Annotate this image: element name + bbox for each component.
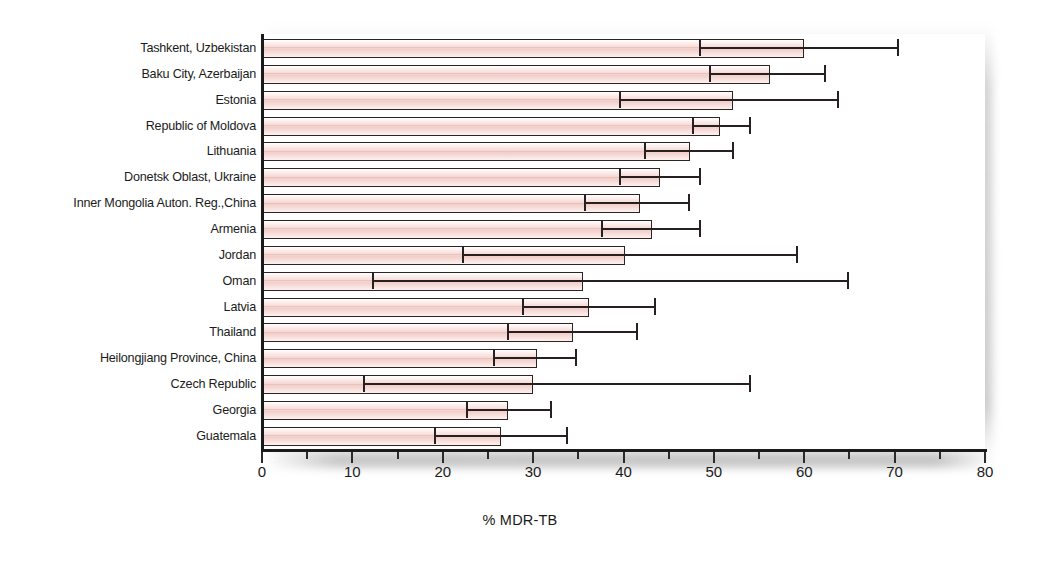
x-tick-label: 20: [413, 463, 473, 480]
x-tick-label: 70: [865, 463, 925, 480]
x-tick-minor: [487, 452, 489, 459]
error-bar-line: [645, 150, 733, 152]
x-tick-major: [984, 452, 986, 463]
x-tick-label: 50: [684, 463, 744, 480]
error-bar-line: [373, 280, 847, 282]
x-tick-major: [623, 452, 625, 463]
bar: [262, 220, 652, 239]
error-bar-cap-high: [837, 91, 839, 108]
category-label: Latvia: [0, 298, 256, 316]
error-bar-cap-high: [654, 298, 656, 315]
category-label: Georgia: [0, 401, 256, 419]
category-label: Estonia: [0, 91, 256, 109]
x-tick-label: 10: [322, 463, 382, 480]
x-tick-major: [894, 452, 896, 463]
error-bar-cap-high: [688, 194, 690, 211]
bar: [262, 142, 690, 161]
error-bar-cap-low: [462, 246, 464, 263]
error-bar-line: [585, 202, 690, 204]
error-bar-line: [693, 125, 750, 127]
error-bar-cap-high: [699, 220, 701, 237]
error-bar-line: [364, 383, 750, 385]
error-bar-cap-high: [749, 117, 751, 134]
x-tick-major: [442, 452, 444, 463]
error-bar-cap-high: [847, 272, 849, 289]
x-tick-minor: [668, 452, 670, 459]
y-axis-line: [261, 34, 264, 451]
error-bar-cap-low: [619, 168, 621, 185]
error-bar-line: [710, 73, 825, 75]
category-label: Donetsk Oblast, Ukraine: [0, 168, 256, 186]
x-tick-label: 80: [955, 463, 1015, 480]
bar: [262, 168, 660, 187]
error-bar-line: [494, 357, 575, 359]
error-bar-cap-low: [507, 323, 509, 340]
category-label: Oman: [0, 272, 256, 290]
x-tick-minor: [577, 452, 579, 459]
error-bar-cap-low: [493, 349, 495, 366]
x-tick-minor: [306, 452, 308, 459]
error-bar-cap-low: [522, 298, 524, 315]
error-bar-cap-low: [644, 142, 646, 159]
x-tick-label: 0: [232, 463, 292, 480]
category-label: Czech Republic: [0, 375, 256, 393]
category-label: Inner Mongolia Auton. Reg.,China: [0, 194, 256, 212]
x-tick-minor: [848, 452, 850, 459]
x-axis-title: % MDR-TB: [0, 512, 1040, 528]
category-label: Tashkent, Uzbekistan: [0, 39, 256, 57]
x-tick-minor: [939, 452, 941, 459]
error-bar-cap-high: [897, 39, 899, 56]
error-bar-cap-low: [601, 220, 603, 237]
error-bar-cap-low: [372, 272, 374, 289]
x-tick-major: [803, 452, 805, 463]
category-label: Jordan: [0, 246, 256, 264]
category-label: Guatemala: [0, 427, 256, 445]
category-label: Baku City, Azerbaijan: [0, 65, 256, 83]
error-bar-line: [508, 331, 637, 333]
error-bar-line: [463, 254, 797, 256]
category-label: Armenia: [0, 220, 256, 238]
bar: [262, 65, 770, 84]
x-tick-major: [532, 452, 534, 463]
error-bar-cap-high: [636, 323, 638, 340]
error-bar-cap-low: [466, 401, 468, 418]
x-tick-major: [713, 452, 715, 463]
error-bar-cap-high: [824, 65, 826, 82]
error-bar-cap-low: [699, 39, 701, 56]
x-tick-major: [261, 452, 263, 463]
x-tick-minor: [397, 452, 399, 459]
x-tick-label: 60: [774, 463, 834, 480]
error-bar-cap-high: [550, 401, 552, 418]
error-bar-line: [435, 435, 567, 437]
error-bar-cap-low: [709, 65, 711, 82]
category-label: Republic of Moldova: [0, 117, 256, 135]
x-tick-label: 40: [594, 463, 654, 480]
error-bar-line: [620, 99, 838, 101]
error-bar-cap-low: [434, 427, 436, 444]
error-bar-cap-low: [692, 117, 694, 134]
category-label: Thailand: [0, 323, 256, 341]
x-tick-major: [351, 452, 353, 463]
error-bar-cap-high: [566, 427, 568, 444]
error-bar-line: [602, 228, 701, 230]
chart-figure: Tashkent, UzbekistanBaku City, Azerbaija…: [0, 0, 1040, 563]
error-bar-line: [523, 306, 655, 308]
error-bar-line: [467, 409, 551, 411]
category-label: Lithuania: [0, 142, 256, 160]
error-bar-line: [620, 176, 700, 178]
error-bar-cap-high: [699, 168, 701, 185]
error-bar-cap-low: [584, 194, 586, 211]
x-tick-label: 30: [503, 463, 563, 480]
error-bar-cap-low: [363, 375, 365, 392]
error-bar-cap-high: [732, 142, 734, 159]
category-label: Heilongjiang Province, China: [0, 349, 256, 367]
error-bar-cap-high: [575, 349, 577, 366]
bar: [262, 117, 720, 136]
x-tick-minor: [758, 452, 760, 459]
error-bar-line: [700, 47, 898, 49]
error-bar-cap-high: [796, 246, 798, 263]
error-bar-cap-low: [619, 91, 621, 108]
error-bar-cap-high: [749, 375, 751, 392]
